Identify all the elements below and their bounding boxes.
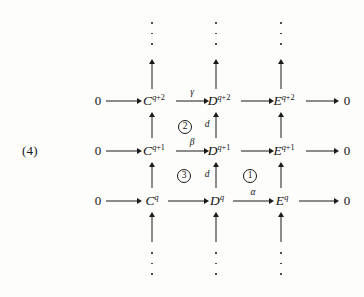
row-middle-node-c: Cq+1 (143, 143, 165, 160)
row-bottom-node-c-sup: q (155, 192, 159, 201)
vertical-arrow-e-bot-to-mid (276, 162, 286, 188)
row-bottom-arrow-e-to-zero (299, 196, 339, 206)
region-marker-3: 3 (177, 169, 191, 183)
vertical-arrow-c-mid-to-top (147, 112, 157, 138)
arrow-label-gamma: γ (190, 87, 194, 97)
row-middle-node-d-base: D (208, 143, 218, 158)
arrow-label-alpha: α (251, 187, 256, 197)
row-top-node-c-sup: q+2 (152, 92, 165, 101)
row-top-node-e-sup: q+2 (282, 92, 295, 101)
vertical-ellipsis-bottom-e (278, 252, 284, 275)
row-middle-node-d-sup: q+1 (218, 142, 231, 151)
row-top-node-c-base: C (143, 93, 152, 108)
row-bottom-arrow-d-to-e (233, 196, 274, 206)
row-middle-node-e-sup: q+1 (282, 142, 295, 151)
row-bottom-node-d: Dq (210, 193, 224, 210)
equation-tag: (4) (22, 143, 38, 159)
row-bottom-node-c-base: C (145, 193, 154, 208)
vertical-arrow-d-above-top (211, 59, 221, 89)
row-bottom-right-zero: 0 (344, 193, 351, 209)
row-top-arrow-d-to-e (241, 96, 274, 106)
row-middle-arrow-d-to-e (241, 146, 274, 156)
row-top-right-zero: 0 (344, 93, 351, 109)
row-top-arrow-c-to-d (176, 96, 209, 106)
region-marker-1: 1 (243, 169, 257, 183)
row-bottom-arrow-c-to-d (168, 196, 209, 206)
row-bottom-node-d-base: D (210, 193, 220, 208)
vertical-arrow-label-d-upper: d (205, 119, 210, 129)
vertical-arrow-d-mid-to-top (211, 112, 221, 138)
vertical-arrow-d-bot-to-mid (211, 162, 221, 188)
vertical-arrow-c-bot-to-mid (147, 162, 157, 188)
vertical-ellipsis-top-e (278, 22, 284, 45)
row-middle-node-c-base: C (143, 143, 152, 158)
row-middle-left-zero: 0 (95, 143, 102, 159)
row-top-node-d-sup: q+2 (218, 92, 231, 101)
region-marker-2: 2 (178, 120, 192, 134)
vertical-arrow-d-below-bottom (211, 212, 221, 242)
row-bottom-arrow-zero-to-c (106, 196, 142, 206)
row-bottom-node-c: Cq (145, 193, 158, 210)
vertical-arrow-e-above-top (276, 59, 286, 89)
vertical-ellipsis-top-c (149, 22, 155, 45)
diagram-canvas: (4) 0 Cq+2 γ Dq+2 Eq+2 0 (0, 0, 364, 297)
row-middle-node-d: Dq+1 (208, 143, 231, 160)
vertical-ellipsis-bottom-d (213, 252, 219, 275)
row-top-arrow-e-to-zero (306, 96, 339, 106)
row-top-node-e: Eq+2 (273, 93, 294, 110)
vertical-arrow-e-below-bottom (276, 212, 286, 242)
row-bottom-node-e-sup: q (284, 192, 288, 201)
vertical-ellipsis-bottom-c (149, 252, 155, 275)
row-middle-arrow-e-to-zero (306, 146, 339, 156)
row-top-node-d-base: D (208, 93, 218, 108)
row-top-arrow-zero-to-c (106, 96, 142, 106)
row-bottom-left-zero: 0 (95, 193, 102, 209)
row-middle-arrow-zero-to-c (106, 146, 142, 156)
row-bottom-node-e: Eq (276, 193, 288, 210)
vertical-ellipsis-top-d (213, 22, 219, 45)
row-middle-node-e: Eq+1 (273, 143, 294, 160)
row-bottom-node-d-sup: q (220, 192, 224, 201)
arrow-label-beta: β (190, 137, 195, 147)
vertical-arrow-c-below-bottom (147, 212, 157, 242)
vertical-arrow-e-mid-to-top (276, 112, 286, 138)
row-middle-node-c-sup: q+1 (152, 142, 165, 151)
row-top-node-d: Dq+2 (208, 93, 231, 110)
row-top-left-zero: 0 (95, 93, 102, 109)
vertical-arrow-label-d-lower: d (205, 169, 210, 179)
vertical-arrow-c-above-top (147, 59, 157, 89)
row-top-node-c: Cq+2 (143, 93, 165, 110)
row-middle-arrow-c-to-d (176, 146, 209, 156)
row-middle-right-zero: 0 (344, 143, 351, 159)
